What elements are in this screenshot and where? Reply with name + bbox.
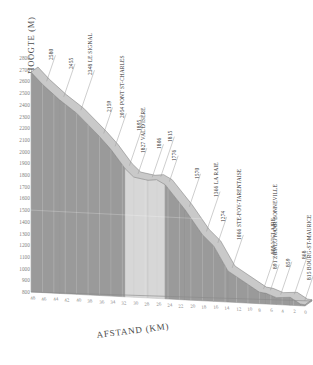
- peak-label: 1776: [171, 149, 177, 160]
- peak-label: 859: [285, 258, 291, 267]
- peak-label: 2455: [68, 57, 74, 68]
- peak-label: 1066 STE-FOY-TARENTAISE: [236, 169, 242, 240]
- profile-plot-area: [0, 0, 313, 365]
- peak-label: 2580: [48, 49, 54, 60]
- profile-segment: [111, 149, 125, 296]
- peak-label: 2054 PONT ST-CHARLES: [119, 56, 125, 119]
- profile-segment: [31, 72, 42, 293]
- profile-segment: [60, 100, 77, 295]
- elevation-profile-chart: HOOGTE (M) AFSTAND (KM) 2800270026002500…: [0, 0, 313, 365]
- profile-segment: [134, 177, 148, 298]
- annotation-leader: [81, 70, 95, 110]
- peak-label: 2159: [106, 101, 112, 112]
- annotation-leader: [206, 192, 220, 232]
- profile-segment: [157, 180, 166, 299]
- peak-label: 1827 VAL D'ISÈRE: [140, 107, 146, 153]
- peak-label: 1815: [167, 130, 173, 141]
- profile-segment: [42, 84, 59, 293]
- annotation-leader: [115, 113, 126, 146]
- peak-label: 1274: [220, 210, 226, 221]
- peak-label: 891 ZIJWEG NAAR BONNEVILLE: [272, 184, 278, 269]
- profile-segment: [276, 297, 290, 305]
- profile-segment: [148, 180, 157, 299]
- peak-label: 1806: [156, 138, 162, 149]
- peak-label: 1366 LA RAIE: [213, 162, 219, 197]
- peak-label: 1570: [194, 167, 200, 178]
- annotation-leader: [152, 144, 163, 177]
- profile-segment: [259, 292, 266, 304]
- peak-label: 2348 LE SIGNAL: [87, 33, 93, 75]
- peak-label: 815 BOURG-ST-MAURICE: [306, 214, 312, 280]
- profile-segment: [100, 136, 111, 296]
- profile-segment: [125, 169, 134, 298]
